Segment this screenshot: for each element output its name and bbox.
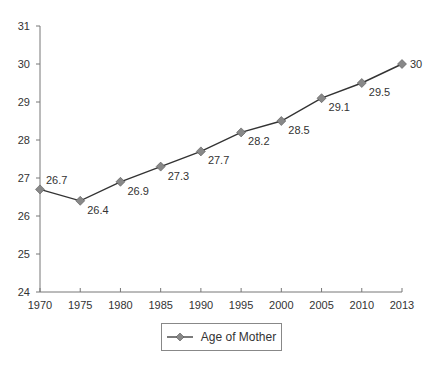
x-tick-label: 2005	[309, 299, 333, 311]
x-tick-label: 1975	[68, 299, 92, 311]
data-label: 29.1	[329, 101, 350, 113]
data-point-diamond-icon	[156, 162, 165, 171]
data-point-diamond-icon	[196, 147, 205, 156]
y-tick-label: 28	[18, 134, 30, 146]
data-label: 29.5	[369, 86, 390, 98]
data-label: 26.9	[127, 185, 148, 197]
x-tick-label: 2013	[390, 299, 414, 311]
y-tick-label: 26	[18, 210, 30, 222]
line-chart: 2425262728293031 19701975198019851990199…	[0, 0, 438, 320]
y-tick-label: 29	[18, 96, 30, 108]
y-tick-label: 30	[18, 58, 30, 70]
data-point-diamond-icon	[36, 185, 45, 194]
data-label: 30	[410, 58, 422, 70]
y-tick-label: 24	[18, 286, 30, 298]
data-point-diamond-icon	[277, 117, 286, 126]
series-age-of-mother: 26.726.426.927.327.728.228.529.129.530	[36, 58, 423, 216]
data-label: 27.7	[208, 154, 229, 166]
y-tick-label: 27	[18, 172, 30, 184]
data-label: 28.5	[288, 124, 309, 136]
x-tick-label: 1985	[148, 299, 172, 311]
x-tick-label: 1980	[108, 299, 132, 311]
y-tick-label: 25	[18, 248, 30, 260]
data-label: 28.2	[248, 135, 269, 147]
legend-label: Age of Mother	[201, 330, 276, 344]
data-label: 26.7	[46, 174, 67, 186]
x-tick-label: 2010	[350, 299, 374, 311]
data-point-diamond-icon	[317, 94, 326, 103]
data-point-diamond-icon	[398, 60, 407, 69]
x-axis: 1970197519801985199019952000200520102013	[28, 288, 414, 311]
data-label: 27.3	[168, 170, 189, 182]
x-tick-label: 2000	[269, 299, 293, 311]
x-tick-label: 1970	[28, 299, 52, 311]
data-point-diamond-icon	[116, 177, 125, 186]
legend-line-diamond-icon	[167, 332, 193, 342]
data-point-diamond-icon	[357, 79, 366, 88]
y-tick-label: 31	[18, 20, 30, 32]
x-tick-label: 1995	[229, 299, 253, 311]
data-point-diamond-icon	[76, 196, 85, 205]
x-tick-label: 1990	[189, 299, 213, 311]
data-point-diamond-icon	[237, 128, 246, 137]
legend: Age of Mother	[161, 323, 282, 351]
data-label: 26.4	[87, 204, 108, 216]
y-axis: 2425262728293031	[18, 20, 40, 298]
